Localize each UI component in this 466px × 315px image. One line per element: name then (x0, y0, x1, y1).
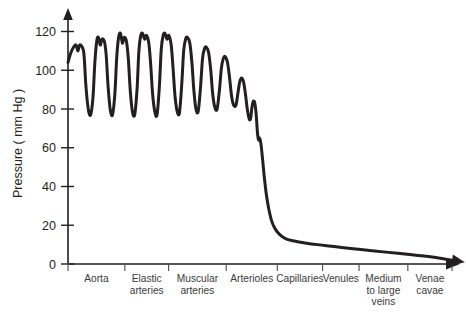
category-label: arteries (130, 285, 164, 296)
category-label: Aorta (84, 273, 109, 284)
category-labels: AortaElasticarteriesMusculararteriesArte… (84, 273, 444, 307)
y-tick-label: 120 (35, 25, 56, 39)
category-label: veins (372, 296, 396, 307)
y-tick-labels: 020406080100120 (35, 25, 56, 272)
category-label: Elastic (132, 273, 162, 284)
category-label: Venae (415, 273, 444, 284)
category-label: to large (366, 285, 400, 296)
y-tick-label: 40 (42, 180, 56, 194)
y-tick-label: 0 (49, 258, 56, 272)
chart-canvas: 020406080100120 Pressure ( mm Hg ) Aorta… (0, 0, 466, 315)
y-axis-arrow-icon (63, 8, 73, 20)
category-label: Venules (323, 273, 359, 284)
category-label: Muscular (177, 273, 219, 284)
category-label: Capillaries (276, 273, 324, 284)
y-tick-label: 100 (35, 64, 56, 78)
category-label: arteries (180, 285, 214, 296)
category-label: Arterioles (230, 273, 273, 284)
x-axis-group: AortaElasticarteriesMusculararteriesArte… (68, 257, 460, 307)
y-axis-title: Pressure ( mm Hg ) (11, 89, 25, 198)
y-tick-label: 80 (42, 103, 56, 117)
y-tick-label: 60 (42, 141, 56, 155)
blood-pressure-curve (68, 33, 452, 260)
blood-pressure-chart: 020406080100120 Pressure ( mm Hg ) Aorta… (0, 0, 466, 315)
category-label: cavae (416, 285, 444, 296)
data-series-group (68, 33, 465, 266)
category-label: Medium (365, 273, 401, 284)
y-axis-group: 020406080100120 Pressure ( mm Hg ) (11, 8, 74, 272)
y-tick-label: 20 (42, 219, 56, 233)
